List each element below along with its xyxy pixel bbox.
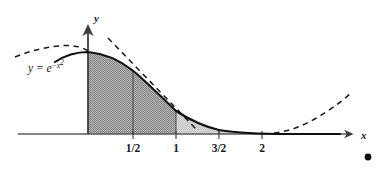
figure-canvas: y x 1/2 1 3/2 2 y = e−x2 — [0, 0, 390, 170]
bullet-dot — [365, 154, 372, 161]
curve-equation-exponent-power: 2 — [60, 58, 64, 67]
curve-equation-base: y = e — [27, 62, 52, 75]
tick-label-one: 1 — [173, 142, 179, 154]
dashed-curve-right — [274, 93, 351, 133]
plot-svg: y x 1/2 1 3/2 2 y = e−x2 — [0, 0, 390, 170]
shaded-region-dark — [88, 52, 176, 134]
dashed-curve-left — [15, 45, 88, 57]
tick-label-three-halves: 3/2 — [212, 142, 227, 154]
y-axis-label: y — [92, 12, 99, 24]
x-axis-label: x — [360, 129, 367, 141]
tick-label-two: 2 — [259, 142, 265, 154]
shaded-region-light — [176, 111, 288, 134]
tick-label-half: 1/2 — [126, 142, 141, 154]
curve-equation-label: y = e−x2 — [27, 58, 64, 75]
